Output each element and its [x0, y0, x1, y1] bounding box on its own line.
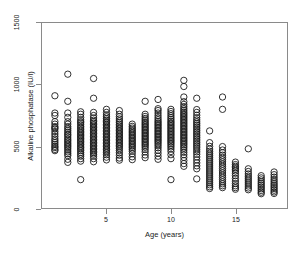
data-point — [245, 146, 251, 152]
data-point — [90, 75, 96, 81]
data-point — [181, 77, 187, 83]
data-series — [52, 71, 278, 197]
y-tick-label: 1500 — [0, 17, 34, 27]
data-point — [194, 95, 200, 101]
x-tick-mark — [171, 209, 172, 214]
y-tick-label-text: 0 — [14, 207, 21, 211]
data-point — [194, 176, 200, 182]
y-axis-title: Alkaline phosphatase (IU/l) — [24, 56, 36, 176]
scatter-plot-figure: Alkaline phosphatase (IU/l) 050010001500… — [0, 0, 304, 258]
data-point — [206, 128, 212, 134]
x-tick-mark — [106, 209, 107, 214]
plot-area — [41, 22, 288, 209]
data-point — [206, 139, 212, 145]
data-point — [168, 176, 174, 182]
y-tick-label: 0 — [0, 204, 34, 214]
y-tick-label-text: 500 — [14, 141, 21, 153]
x-tick-label: 15 — [226, 216, 246, 223]
x-axis-title: Age (years) — [41, 230, 288, 239]
data-point — [219, 94, 225, 100]
y-tick-label: 500 — [0, 142, 34, 152]
data-point — [78, 176, 84, 182]
y-tick-mark — [36, 209, 41, 210]
x-tick-mark — [236, 209, 237, 214]
data-point — [155, 96, 161, 102]
data-point — [65, 98, 71, 104]
x-tick-label: 10 — [161, 216, 181, 223]
data-point — [168, 155, 174, 161]
y-axis: Alkaline phosphatase (IU/l) 050010001500 — [0, 0, 41, 258]
data-point — [116, 107, 122, 113]
y-tick-label-text: 1500 — [13, 14, 20, 30]
y-tick-label: 1000 — [0, 79, 34, 89]
data-point — [142, 98, 148, 104]
x-tick-label: 5 — [96, 216, 116, 223]
data-point — [90, 95, 96, 101]
data-point — [52, 93, 58, 99]
y-axis-title-holder: Alkaline phosphatase (IU/l) — [14, 0, 26, 231]
data-point — [65, 71, 71, 77]
data-point — [219, 106, 225, 112]
data-point — [181, 83, 187, 89]
data-points-layer — [42, 23, 287, 208]
y-tick-label-text: 1000 — [13, 77, 20, 93]
